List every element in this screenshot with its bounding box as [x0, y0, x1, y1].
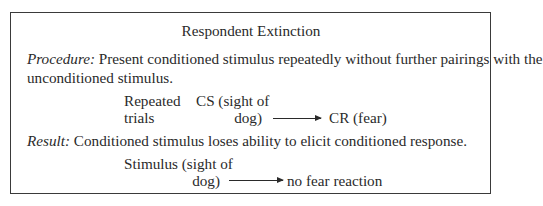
result-label: Result:: [27, 132, 70, 149]
no-fear-response: no fear reaction: [287, 172, 382, 189]
right-arrow-icon: [273, 118, 321, 119]
cs-stimulus-line-1: CS (sight of: [196, 92, 269, 109]
procedure-label: Procedure:: [27, 50, 95, 67]
result-line: Result: Conditioned stimulus loses abili…: [27, 132, 467, 149]
right-arrow-icon: [229, 180, 283, 181]
result-stimulus-line-1: Stimulus (sight of: [124, 155, 233, 172]
trials-label: trials: [124, 109, 154, 126]
procedure-text: Present conditioned stimulus repeatedly …: [95, 50, 543, 67]
cr-response: CR (fear): [329, 109, 387, 126]
result-stimulus-line-2: dog): [124, 172, 220, 189]
repeated-label: Repeated: [124, 92, 181, 109]
procedure-line-2: unconditioned stimulus.: [27, 69, 173, 86]
result-text: Conditioned stimulus loses ability to el…: [70, 132, 467, 149]
procedure-line-1: Procedure: Present conditioned stimulus …: [27, 50, 543, 67]
diagram-title: Respondent Extinction: [0, 22, 502, 39]
cs-stimulus-line-2: dog): [196, 109, 262, 126]
